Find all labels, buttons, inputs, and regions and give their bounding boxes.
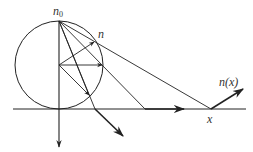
ray-n0-to-circle-lower xyxy=(59,21,89,95)
arrow-down-right xyxy=(95,109,123,136)
label-x: x xyxy=(206,112,213,126)
arrow-center-to-lower-circle xyxy=(59,65,89,95)
label-n0: n0 xyxy=(53,4,63,19)
geometry-diagram: n0 n n(x) x xyxy=(0,0,253,152)
arrow-center-to-n xyxy=(59,42,94,65)
label-n: n xyxy=(98,27,104,41)
label-nx: n(x) xyxy=(219,75,238,89)
normal-arrow-nx xyxy=(211,89,243,109)
